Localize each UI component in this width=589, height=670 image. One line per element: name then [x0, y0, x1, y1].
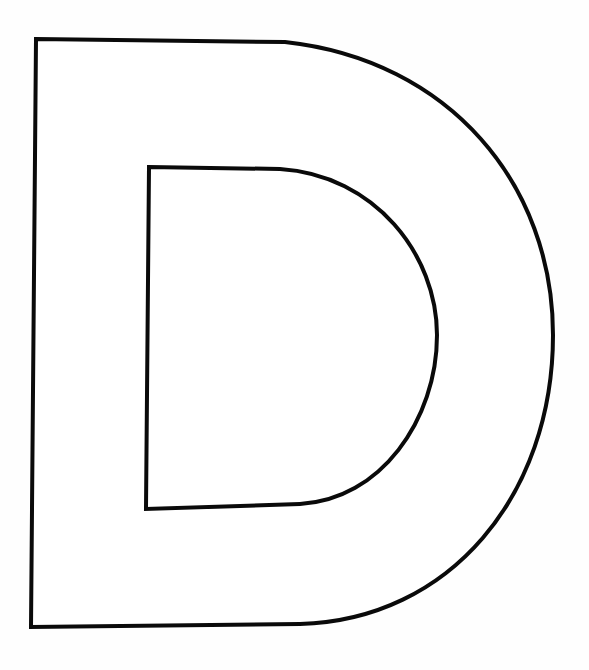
- letter-d-graphic: [0, 0, 589, 670]
- letter-d-outline-canvas: D: [0, 0, 589, 670]
